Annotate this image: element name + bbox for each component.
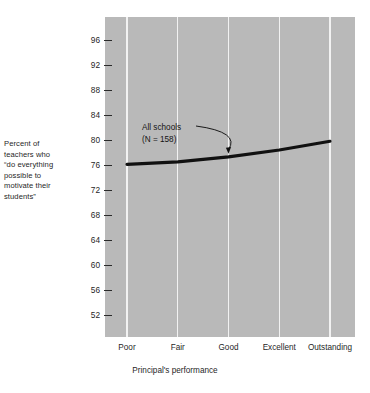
y-tick-mark — [104, 65, 112, 66]
y-tick-mark — [104, 315, 112, 316]
annotation-label: All schools (N = 158) — [142, 122, 181, 145]
y-tick-88: 88 — [76, 84, 112, 96]
y-tick-label: 80 — [91, 134, 100, 146]
x-tick-label-good: Good — [218, 342, 238, 353]
y-tick-80: 80 — [76, 134, 112, 146]
y-tick-label: 96 — [91, 34, 100, 46]
y-tick-label: 88 — [91, 84, 100, 96]
y-tick-label: 56 — [91, 284, 100, 296]
y-tick-mark — [104, 90, 112, 91]
y-tick-mark — [104, 265, 112, 266]
y-tick-92: 92 — [76, 59, 112, 71]
y-tick-mark — [104, 115, 112, 116]
y-tick-68: 68 — [76, 209, 112, 221]
y-tick-52: 52 — [76, 309, 112, 321]
y-axis-ticks: 525660646872768084889296 — [0, 0, 370, 393]
y-tick-84: 84 — [76, 109, 112, 121]
x-tick-label-outstanding: Outstanding — [308, 342, 352, 353]
y-tick-label: 68 — [91, 209, 100, 221]
y-tick-96: 96 — [76, 34, 112, 46]
chart-figure: Percent of teachers who “do everything p… — [0, 0, 370, 393]
annotation-label-line-2: (N = 158) — [142, 134, 181, 146]
y-tick-72: 72 — [76, 184, 112, 196]
y-tick-mark — [104, 140, 112, 141]
y-tick-64: 64 — [76, 234, 112, 246]
y-tick-76: 76 — [76, 159, 112, 171]
y-tick-label: 64 — [91, 234, 100, 246]
y-tick-mark — [104, 165, 112, 166]
y-tick-label: 92 — [91, 59, 100, 71]
x-axis-title: Principal's performance — [132, 365, 217, 376]
x-tick-label-poor: Poor — [118, 342, 135, 353]
y-tick-label: 72 — [91, 184, 100, 196]
y-tick-mark — [104, 40, 112, 41]
x-tick-label-fair: Fair — [171, 342, 185, 353]
y-tick-label: 84 — [91, 109, 100, 121]
y-tick-label: 60 — [91, 259, 100, 271]
y-tick-mark — [104, 190, 112, 191]
y-tick-mark — [104, 215, 112, 216]
y-tick-label: 52 — [91, 309, 100, 321]
y-tick-mark — [104, 240, 112, 241]
y-tick-mark — [104, 290, 112, 291]
x-tick-label-excellent: Excellent — [263, 342, 296, 353]
y-tick-60: 60 — [76, 259, 112, 271]
y-tick-56: 56 — [76, 284, 112, 296]
annotation-label-line-1: All schools — [142, 122, 181, 134]
y-tick-label: 76 — [91, 159, 100, 171]
